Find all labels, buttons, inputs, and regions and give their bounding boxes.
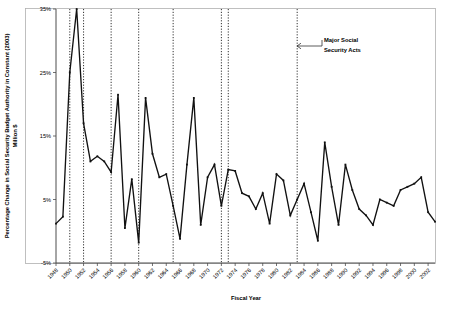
data-point-1994 [372,224,374,226]
data-point-2000 [413,183,415,185]
data-point-1999 [407,186,409,188]
y-tick-label-35%: 35% [40,6,51,12]
data-point-1969 [200,224,202,226]
data-point-1956 [110,171,112,173]
data-point-1970 [207,176,209,178]
data-point-1971 [214,164,216,166]
data-point-1966 [179,238,181,240]
data-point-1961 [145,97,147,99]
data-point-1982 [289,214,291,216]
data-point-2002 [427,211,429,213]
data-point-1996 [386,202,388,204]
data-point-1955 [103,161,105,163]
data-point-1998 [400,189,402,191]
annotation-line-1: Major Social [324,37,359,43]
data-point-1972 [220,205,222,207]
y-axis-title-line-2: Million $ [12,124,18,148]
data-point-1958 [124,227,126,229]
data-point-1952 [83,122,85,124]
data-point-1990 [345,164,347,166]
data-point-1968 [193,97,195,99]
annotation-line-2: Security Acts [324,47,361,53]
data-point-1974 [234,170,236,172]
data-point-1965 [172,205,174,207]
x-axis-title: Fiscal Year [231,295,262,301]
data-point-1983 [296,199,298,201]
data-point-1949 [62,216,64,218]
data-point-1989 [338,224,340,226]
data-point-1977 [255,208,257,210]
data-point-1992 [358,208,360,210]
data-point-1980 [276,173,278,175]
chart-figure: 35%25%15%5%-5% 1948195019521954195619581… [0,0,453,312]
line-chart: 35%25%15%5%-5% 1948195019521954195619581… [0,0,453,312]
data-point-1987 [324,141,326,143]
data-point-1979 [269,223,271,225]
data-point-1986 [317,240,319,242]
data-point-1967 [186,164,188,166]
data-point-1976 [248,195,250,197]
data-point-1985 [310,211,312,213]
y-axis-title-line-1: Percentage Change in Social Security Bud… [4,34,10,239]
data-point-1948 [55,223,57,225]
data-point-1995 [379,199,381,201]
data-point-2001 [420,176,422,178]
data-point-1978 [262,192,264,194]
data-point-1973 [227,169,229,171]
y-tick-label-25%: 25% [40,70,51,76]
data-point-1960 [138,242,140,244]
data-point-2003 [434,221,436,223]
data-point-1962 [152,153,154,155]
data-point-1954 [96,155,98,157]
data-point-1991 [351,189,353,191]
data-point-1975 [241,192,243,194]
y-tick-label--5%: -5% [41,260,51,266]
data-point-1959 [131,178,133,180]
data-point-1993 [365,214,367,216]
data-point-1963 [158,176,160,178]
data-point-1984 [303,183,305,185]
data-point-1953 [90,161,92,163]
data-point-1957 [117,94,119,96]
data-point-1964 [165,173,167,175]
data-point-1997 [393,205,395,207]
y-tick-label-5%: 5% [43,197,51,203]
chart-background [0,0,453,312]
data-point-1951 [76,8,78,10]
data-point-1950 [69,72,71,74]
data-point-1981 [283,180,285,182]
y-tick-label-15%: 15% [40,133,51,139]
data-point-1988 [331,186,333,188]
